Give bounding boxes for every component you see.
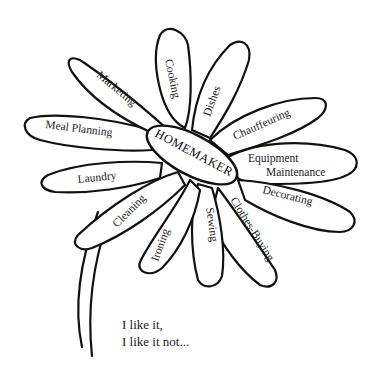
petal-equipment-maintenance: Equipment Maintenance bbox=[228, 143, 357, 184]
petal-cooking: Cooking bbox=[156, 29, 191, 128]
caption: I like it, I like it not... bbox=[122, 316, 189, 350]
caption-line-1: I like it, bbox=[122, 316, 189, 333]
petal-label-maintenance: Maintenance bbox=[266, 166, 325, 178]
caption-line-2: I like it not... bbox=[122, 333, 189, 350]
petal-label-equipment: Equipment bbox=[248, 152, 299, 165]
